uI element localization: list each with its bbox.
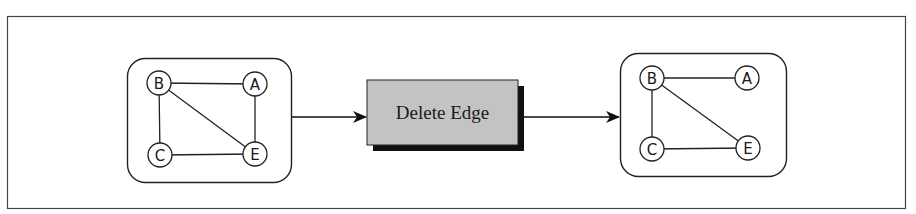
after-node-b: B <box>640 66 664 90</box>
node-label: C <box>647 141 657 159</box>
before-node-c: C <box>148 143 172 167</box>
before-node-b: B <box>147 71 171 95</box>
after-node-a: A <box>735 66 759 90</box>
node-label: E <box>250 146 259 164</box>
node-label: A <box>742 70 753 88</box>
after-node-c: C <box>640 137 664 161</box>
node-label: B <box>647 70 657 88</box>
node-label: C <box>155 147 165 165</box>
operation-label: Delete Edge <box>396 102 489 123</box>
before-node-e: E <box>243 142 267 166</box>
node-label: B <box>154 75 164 93</box>
before-node-a: A <box>243 72 267 96</box>
after-node-e: E <box>736 136 760 160</box>
node-label: A <box>250 76 261 94</box>
node-label: E <box>743 140 752 158</box>
delete-edge-diagram: BACE Delete Edge BACE <box>0 0 916 214</box>
